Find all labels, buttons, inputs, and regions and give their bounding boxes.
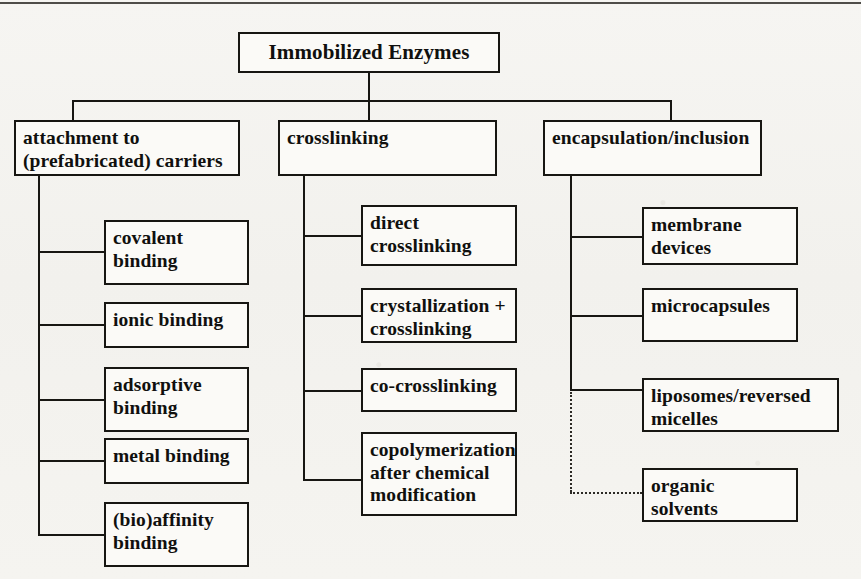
connector-level1-bus <box>72 100 672 102</box>
top-horizontal-rule <box>0 2 861 4</box>
node-ionic-binding: ionic binding <box>104 302 249 348</box>
node-covalent-binding: covalent binding <box>104 220 249 285</box>
connector-branch-membrane-devices <box>570 236 642 238</box>
node-liposomes-reversed-micelles: liposomes/reversed micelles <box>642 378 839 432</box>
connector-branch-bioaffinity-binding <box>38 534 104 536</box>
connector-root-stem <box>368 73 370 101</box>
node-bioaffinity-binding: (bio)affinity binding <box>104 502 249 567</box>
node-crystallization-crosslinking: crystallization + crosslinking <box>361 288 517 343</box>
node-co-crosslinking: co-crosslinking <box>361 368 517 412</box>
connector-branch-covalent-binding <box>38 251 104 253</box>
connector-spine-encapsulation <box>570 176 572 390</box>
node-membrane-devices: membrane devices <box>642 207 798 265</box>
connector-branch-co-crosslinking <box>303 390 361 392</box>
connector-branch-liposomes-micelles <box>570 389 642 391</box>
node-metal-binding: metal binding <box>104 438 249 484</box>
diagram-canvas: Immobilized Enzymes attachment to (prefa… <box>0 0 861 579</box>
node-crosslinking: crosslinking <box>278 120 497 176</box>
connector-drop-encapsulation <box>670 100 672 120</box>
connector-drop-attachment <box>72 100 74 120</box>
connector-branch-metal-binding <box>38 460 104 462</box>
connector-branch-copolymerization <box>303 479 361 481</box>
node-root-immobilized-enzymes: Immobilized Enzymes <box>238 32 500 73</box>
node-adsorptive-binding: adsorptive binding <box>104 367 249 432</box>
node-attachment-to-carriers: attachment to (prefabricated) carriers <box>14 120 240 176</box>
node-microcapsules: microcapsules <box>642 288 798 342</box>
node-copolymerization-after-chemical-modification: copolymerization after chemical modifica… <box>361 432 517 516</box>
node-direct-crosslinking: direct crosslinking <box>361 205 517 266</box>
connector-spine-encapsulation-dotted <box>570 392 572 492</box>
connector-branch-adsorptive-binding <box>38 399 104 401</box>
connector-branch-direct-crosslinking <box>303 235 361 237</box>
node-encapsulation-inclusion: encapsulation/inclusion <box>543 120 762 176</box>
connector-drop-crosslinking <box>368 100 370 120</box>
connector-spine-attachment <box>38 176 40 535</box>
connector-branch-organic-solvents-dotted <box>570 492 642 494</box>
connector-branch-microcapsules <box>570 315 642 317</box>
connector-branch-crystallization-crosslinking <box>303 315 361 317</box>
connector-branch-ionic-binding <box>38 324 104 326</box>
node-organic-solvents: organic solvents <box>642 468 798 522</box>
connector-spine-crosslinking <box>303 176 305 480</box>
